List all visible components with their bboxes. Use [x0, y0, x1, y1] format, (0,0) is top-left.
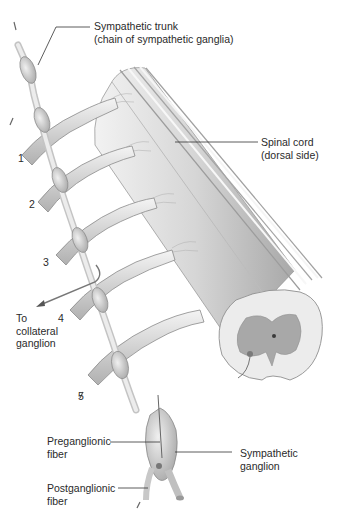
label-postganglionic-fiber: Postganglionic fiber: [47, 482, 115, 507]
label-line: To: [16, 312, 58, 325]
label-sympathetic-trunk: Sympathetic trunk (chain of sympathetic …: [94, 20, 234, 45]
label-line: Spinal cord: [261, 136, 319, 149]
label-line: Postganglionic: [47, 482, 115, 495]
segment-number-3: 3: [43, 256, 49, 268]
label-preganglionic-fiber: Preganglionic fiber: [47, 435, 111, 460]
segment-number-1: 1: [18, 152, 24, 164]
label-sympathetic-ganglion: Sympathetic ganglion: [240, 447, 298, 472]
segment-number-4: 4: [58, 312, 64, 324]
spinal-cord-cross-section: [219, 290, 322, 380]
label-line: ganglion: [240, 460, 298, 473]
label-line: collateral: [16, 325, 58, 338]
label-line: Preganglionic: [47, 435, 111, 448]
segment-number-2: 2: [29, 198, 35, 210]
sympathetic-ganglion-lower: [137, 395, 184, 508]
label-line: (chain of sympathetic ganglia): [94, 33, 234, 46]
label-spinal-cord: Spinal cord (dorsal side): [261, 136, 319, 161]
label-line: fiber: [47, 448, 111, 461]
label-line: fiber: [47, 495, 115, 508]
segment-number-5: 5: [78, 390, 84, 402]
label-line: ganglion: [16, 337, 58, 350]
label-line: Sympathetic: [240, 447, 298, 460]
label-to-collateral-ganglion: To collateral ganglion: [16, 312, 58, 350]
label-line: (dorsal side): [261, 149, 319, 162]
label-line: Sympathetic trunk: [94, 20, 234, 33]
